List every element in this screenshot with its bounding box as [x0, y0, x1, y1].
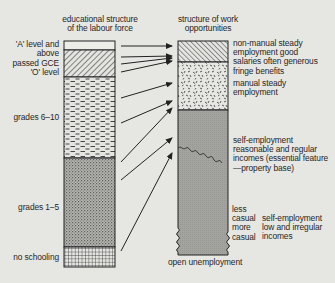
arrow-grades-6-10-b: [121, 101, 172, 123]
label-grades-1-5: grades 1–5: [18, 203, 59, 212]
arrow-grades-6-10-a: [121, 83, 172, 98]
label-grades-1-5-text: grades 1–5: [18, 203, 59, 212]
diagram-canvas: educational structure of the labour forc…: [0, 0, 335, 283]
label-se-regular-line4: —property base): [233, 164, 328, 173]
label-o-level: passed GCE 'O' level: [13, 59, 59, 77]
segment-o-level: [64, 50, 115, 77]
arrow-grades-6-10-c: [121, 108, 172, 162]
segment-self-employment: [177, 110, 230, 255]
casual-scale: less casual more casual: [232, 205, 256, 242]
label-grades-6-10: grades 6–10: [14, 113, 59, 122]
label-self-employment-regular: self-employment reasonable and regular i…: [233, 136, 328, 173]
label-manual-line2: employment: [233, 88, 286, 97]
arrow-o-level-1: [121, 56, 172, 57]
segment-grades-6-10: [64, 77, 115, 158]
casual-label-2: casual: [232, 233, 256, 242]
segment-no-schooling: [64, 247, 115, 267]
label-non-manual-line4: fringe benefits: [233, 67, 318, 76]
left-column-title: educational structure of the labour forc…: [50, 15, 150, 33]
segment-a-level: [64, 41, 115, 50]
segment-non-manual: [178, 41, 228, 62]
arrow-grades-1-5: [121, 138, 172, 180]
segment-manual: [178, 62, 228, 110]
right-column-title: structure of work opportunities: [168, 15, 248, 33]
label-open-unemployment: open unemployment: [168, 258, 242, 267]
arrows: [121, 46, 172, 251]
label-no-schooling: no schooling: [13, 253, 59, 262]
segment-grades-1-5: [64, 158, 115, 247]
education-bar: [64, 41, 115, 267]
arrow-no-schooling: [121, 153, 172, 251]
left-title-line2: of the labour force: [50, 24, 150, 33]
work-bar: [177, 41, 230, 255]
label-self-employment-irregular: self-employment low and irregular income…: [262, 214, 322, 242]
label-grades-6-10-text: grades 6–10: [14, 113, 59, 122]
label-no-schooling-text: no schooling: [13, 253, 59, 262]
right-title-line2: opportunities: [168, 24, 248, 33]
label-se-irregular-line3: incomes: [262, 232, 322, 241]
label-o-level-line2: 'O' level: [13, 68, 59, 77]
label-non-manual: non-manual steady employment good salari…: [233, 39, 318, 76]
label-a-level: 'A' level and above: [16, 40, 59, 58]
label-manual: manual steady employment: [233, 79, 286, 97]
